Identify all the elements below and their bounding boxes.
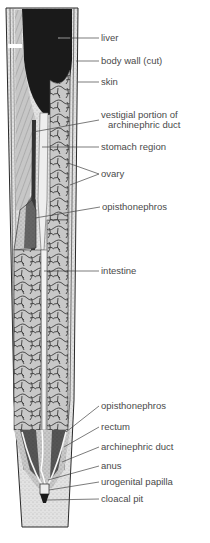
label-skin: skin — [101, 77, 118, 87]
label-body-wall: body wall (cut) — [101, 56, 162, 66]
label-opisthonephros-lower: opisthonephros — [101, 401, 166, 411]
label-cloacal-pit: cloacal pit — [101, 494, 143, 504]
label-anus: anus — [101, 461, 122, 471]
label-liver: liver — [101, 33, 118, 43]
label-archinephric-duct: archinephric duct — [101, 442, 173, 452]
label-vestigial-duct: vestigial portion of archinephric duct — [101, 110, 180, 130]
label-ovary: ovary — [101, 169, 124, 179]
label-urogenital-papilla: urogenital papilla — [101, 477, 173, 487]
ovary-right — [50, 70, 70, 220]
label-intestine: intestine — [101, 266, 136, 276]
label-opisthonephros-upper: opisthonephros — [102, 202, 167, 212]
label-stomach-region: stomach region — [101, 142, 166, 152]
label-rectum: rectum — [101, 422, 130, 432]
intestine — [41, 250, 47, 430]
label-vestigial-duct-line2: archinephric duct — [101, 120, 180, 130]
